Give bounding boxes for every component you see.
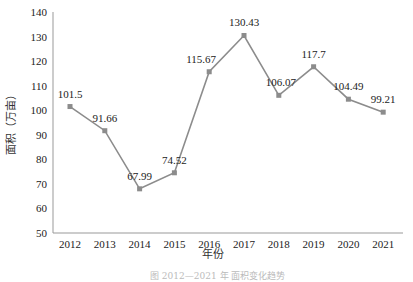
data-labels: 101.591.6667.9974.52115.67130.43106.0711… xyxy=(58,16,396,181)
y-tick-label: 120 xyxy=(31,55,48,67)
data-label: 115.67 xyxy=(186,53,216,65)
data-point-marker xyxy=(346,97,351,102)
x-axis-ticks: 2012201320142015201620172018201920202021 xyxy=(59,238,394,250)
y-tick-label: 110 xyxy=(31,80,48,92)
data-label: 104.49 xyxy=(333,80,364,92)
x-tick-label: 2012 xyxy=(59,238,81,250)
data-label: 106.07 xyxy=(266,76,297,88)
y-tick-label: 140 xyxy=(31,6,48,18)
y-tick-label: 80 xyxy=(36,153,48,165)
y-tick-label: 100 xyxy=(31,104,48,116)
y-tick-label: 60 xyxy=(36,202,48,214)
x-tick-label: 2019 xyxy=(303,238,326,250)
x-tick-label: 2013 xyxy=(94,238,117,250)
y-tick-label: 70 xyxy=(36,178,48,190)
x-tick-label: 2018 xyxy=(268,238,291,250)
figure-caption: 图 2012—2021 年 面积变化趋势 xyxy=(150,269,285,282)
data-point-marker xyxy=(311,64,316,69)
x-tick-label: 2014 xyxy=(129,238,152,250)
data-point-marker xyxy=(68,104,73,109)
x-tick-label: 2021 xyxy=(372,238,394,250)
x-axis-title: 年份 xyxy=(202,247,224,261)
data-point-marker xyxy=(172,170,177,175)
x-tick-label: 2017 xyxy=(233,238,256,250)
data-point-marker xyxy=(207,69,212,74)
data-label: 101.5 xyxy=(58,88,83,100)
y-tick-label: 50 xyxy=(36,227,48,239)
x-tick-label: 2020 xyxy=(337,238,360,250)
data-label: 99.21 xyxy=(371,93,396,105)
data-point-marker xyxy=(276,93,281,98)
y-axis-title: 面积（万亩） xyxy=(4,89,18,155)
y-tick-label: 130 xyxy=(31,31,48,43)
data-label: 74.52 xyxy=(162,154,187,166)
data-label: 67.99 xyxy=(127,170,152,182)
x-tick-label: 2015 xyxy=(163,238,186,250)
data-point-marker xyxy=(381,110,386,115)
data-point-marker xyxy=(242,33,247,38)
data-label: 91.66 xyxy=(92,112,117,124)
data-label: 130.43 xyxy=(229,16,260,28)
data-label: 117.7 xyxy=(301,48,326,60)
data-point-marker xyxy=(137,186,142,191)
y-axis-ticks: 5060708090100110120130140 xyxy=(31,6,48,239)
data-point-marker xyxy=(102,128,107,133)
y-tick-label: 90 xyxy=(36,129,48,141)
